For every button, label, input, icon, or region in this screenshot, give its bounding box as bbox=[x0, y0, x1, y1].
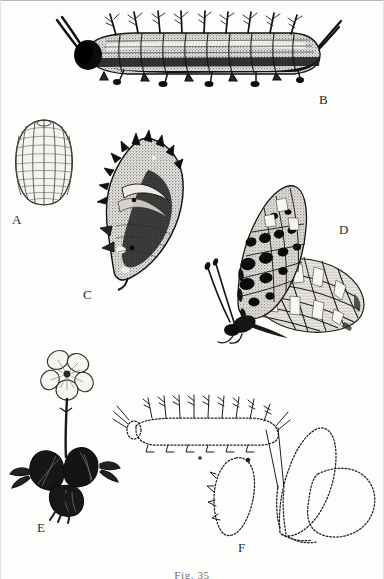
page-border-left bbox=[0, 0, 1, 579]
panel-label-F: F bbox=[238, 541, 246, 554]
panel-host-plant-violet bbox=[8, 348, 126, 524]
panel-pupa-detailed bbox=[88, 130, 198, 290]
panel-label-C: C bbox=[83, 288, 92, 301]
panel-egg bbox=[8, 116, 80, 208]
figure-caption: Fig. 35 bbox=[0, 569, 384, 579]
figure-plate: B bbox=[0, 0, 384, 579]
panel-label-D: D bbox=[339, 223, 349, 236]
panel-label-A: A bbox=[12, 213, 22, 226]
panel-label-E: E bbox=[37, 521, 45, 534]
page-border-top bbox=[0, 0, 384, 1]
panel-label-B: B bbox=[319, 93, 328, 106]
panel-larva-detailed bbox=[48, 8, 348, 93]
panel-adult-butterfly bbox=[204, 172, 380, 344]
panel-outline-stages bbox=[112, 382, 380, 542]
